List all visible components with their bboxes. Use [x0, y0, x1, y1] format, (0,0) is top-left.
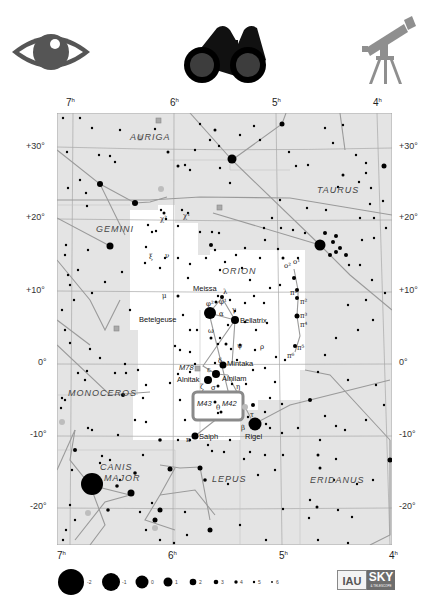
svg-text:ξ: ξ — [149, 253, 153, 261]
svg-text:ω: ω — [208, 327, 214, 335]
dec-label-right-m20: -20° — [399, 501, 416, 511]
label-saiph: Saiph — [199, 432, 218, 441]
dec-label-left-m10: -10° — [30, 429, 47, 439]
svg-text:ν: ν — [165, 252, 169, 260]
iau-logo: IAU — [337, 570, 367, 590]
dec-label-right-m10: -10° — [399, 429, 416, 439]
svg-text:o²: o² — [284, 262, 291, 270]
dec-label-left-m20: -20° — [30, 501, 47, 511]
svg-text:4: 4 — [240, 579, 243, 585]
ra-label-bottom-4h: 4h — [389, 550, 398, 561]
label-mintaka: Mintaka — [227, 359, 254, 368]
label-monoceros: MONOCEROS — [68, 388, 137, 398]
ra-label-bottom-6h: 6h — [168, 550, 177, 561]
star-sirius — [81, 473, 103, 495]
dec-label-right-p10: +10° — [399, 285, 418, 295]
svg-text:0: 0 — [151, 579, 154, 585]
svg-text:ζ: ζ — [200, 383, 204, 391]
svg-text:1: 1 — [175, 579, 178, 585]
label-canis: CANIS — [100, 462, 133, 472]
svg-text:η: η — [236, 383, 240, 391]
svg-text:π²: π² — [300, 298, 308, 306]
telescope-icon — [360, 16, 418, 86]
svg-text:φ²: φ² — [206, 300, 214, 308]
star-aldebaran — [315, 240, 326, 251]
star-map: AURIGA TAURUS GEMINI ORION MONOCEROS CAN… — [57, 113, 392, 545]
svg-text:κ: κ — [186, 436, 191, 444]
ra-label-bottom-5h: 5h — [279, 550, 288, 561]
svg-text:6: 6 — [276, 579, 279, 585]
svg-text:θ: θ — [216, 404, 220, 412]
svg-text:β: β — [241, 424, 245, 432]
dec-label-right-p30: +30° — [399, 141, 418, 151]
star-rigel — [249, 418, 262, 431]
ra-label-bottom-7h: 7h — [57, 550, 66, 561]
label-gemini: GEMINI — [96, 224, 134, 234]
svg-text:γ: γ — [232, 306, 236, 314]
svg-text:φ¹: φ¹ — [219, 298, 227, 306]
dec-label-left-p20: +20° — [26, 212, 45, 222]
label-rigel: Rigel — [245, 432, 262, 441]
dec-label-right-p20: +20° — [399, 212, 418, 222]
label-major: MAJOR — [104, 473, 141, 483]
svg-text:σ: σ — [211, 384, 216, 392]
label-lepus: LEPUS — [212, 474, 247, 484]
svg-text:χ¹: χ¹ — [183, 212, 190, 220]
label-eridanus: ERIDANUS — [310, 475, 365, 485]
dec-label-left-p10: +10° — [26, 285, 45, 295]
eye-icon — [10, 28, 92, 76]
dec-label-left-0: 0° — [38, 357, 47, 367]
svg-text:3: 3 — [221, 579, 224, 585]
svg-text:π⁶: π⁶ — [287, 352, 295, 360]
svg-text:π⁴: π⁴ — [300, 321, 308, 329]
label-m43: M43 — [197, 399, 212, 408]
ra-label-top-4h: 4h — [373, 97, 382, 108]
svg-text:π³: π³ — [300, 312, 308, 320]
sky-logo-text: SKY — [367, 570, 395, 584]
label-auriga: AURIGA — [129, 132, 171, 142]
label-bellatrix: Bellatrix — [240, 316, 267, 325]
ra-label-top-6h: 6h — [170, 97, 179, 108]
ra-label-top-7h: 7h — [66, 97, 75, 108]
svg-text:π¹: π¹ — [290, 289, 298, 297]
label-taurus: TAURUS — [317, 185, 359, 195]
ra-label-top-5h: 5h — [272, 97, 281, 108]
sky-logo-subtext: & TELESCOPE — [367, 584, 395, 589]
svg-text:δ: δ — [218, 357, 222, 365]
label-m42: M42 — [222, 399, 237, 408]
dec-label-left-p30: +30° — [26, 141, 45, 151]
svg-text:-2: -2 — [87, 579, 92, 585]
label-betelgeuse: Betelgeuse — [139, 315, 177, 324]
svg-text:χ²: χ² — [160, 215, 167, 223]
dec-label-right-0: 0° — [399, 357, 408, 367]
svg-text:o¹: o¹ — [293, 258, 300, 266]
svg-text:ε: ε — [207, 366, 211, 374]
svg-text:ρ: ρ — [260, 343, 264, 351]
binoculars-icon — [182, 20, 267, 85]
svg-text:μ: μ — [162, 292, 167, 300]
svg-text:τ: τ — [250, 411, 254, 419]
svg-text:-1: -1 — [122, 579, 127, 585]
svg-text:ψ: ψ — [237, 342, 243, 350]
label-alnitak: Alnitak — [177, 375, 200, 384]
svg-text:α: α — [219, 310, 224, 318]
label-m78: M78 — [179, 363, 194, 372]
sky-telescope-logo: SKY & TELESCOPE — [367, 570, 395, 590]
svg-text:λ: λ — [223, 288, 228, 296]
label-alnilam: Alnilam — [222, 374, 247, 383]
label-meissa: Meissa — [193, 284, 218, 293]
svg-text:π⁵: π⁵ — [297, 344, 305, 352]
label-orion: ORION — [222, 266, 257, 276]
svg-text:5: 5 — [258, 579, 261, 585]
magnitude-legend: -2 -1 0 1 2 3 4 5 6 — [55, 565, 315, 600]
svg-text:2: 2 — [199, 579, 202, 585]
